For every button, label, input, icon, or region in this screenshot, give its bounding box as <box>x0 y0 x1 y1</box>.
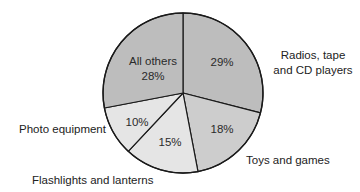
category-label-toys-and-games: Toys and games <box>246 154 330 166</box>
slice-inner-name-all-others: All others <box>129 55 177 67</box>
slice-percent-flashlights-and-lanterns: 15% <box>158 136 181 148</box>
pie-chart: 29%18%15%10%All others28% Radios, tapean… <box>0 0 360 192</box>
category-label-photo-equipment: Photo equipment <box>19 123 107 135</box>
slice-percent-radios-tape-and-cd-players: 29% <box>210 56 233 68</box>
pie-slices <box>103 13 263 173</box>
slice-percent-all-others: 28% <box>141 70 164 82</box>
category-label-radios-tape-and-cd-players: Radios, tape <box>281 49 346 61</box>
slice-percent-photo-equipment: 10% <box>125 116 148 128</box>
slice-percent-toys-and-games: 18% <box>210 123 233 135</box>
category-label-radios-tape-and-cd-players: and CD players <box>273 64 353 76</box>
category-label-flashlights-and-lanterns: Flashlights and lanterns <box>32 174 154 186</box>
